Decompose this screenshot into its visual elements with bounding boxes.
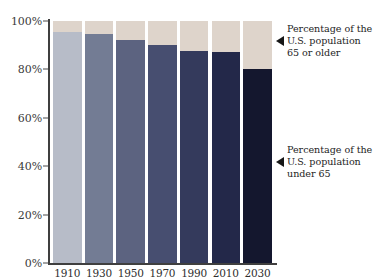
annotation-65-or-older-label: Percentage of the U.S. population 65 or … — [287, 23, 372, 60]
left-arrow-icon — [276, 36, 284, 46]
y-axis-tick-label: 20% — [18, 209, 42, 220]
bar-segment-65-or-older — [85, 21, 114, 34]
bar-segment-under-65 — [212, 52, 241, 263]
x-axis-tick-label: 1990 — [180, 266, 209, 280]
x-axis-tick-label: 1950 — [116, 266, 145, 280]
annotation-65-or-older: Percentage of the U.S. population 65 or … — [276, 23, 372, 60]
y-axis-tick-label: 0% — [25, 258, 42, 269]
bar-segment-under-65 — [180, 51, 209, 263]
y-axis-tick-label: 80% — [18, 64, 42, 75]
bar-segment-65-or-older — [180, 21, 209, 51]
x-axis-tick-label: 1930 — [85, 266, 114, 280]
x-axis-tick-label: 2030 — [243, 266, 272, 280]
stacked-bar-chart: 0%20%40%60%80%100% 191019301950197019902… — [0, 0, 389, 280]
bar-segment-65-or-older — [212, 21, 241, 52]
bar-segment-under-65 — [148, 45, 177, 263]
bar-1970 — [148, 21, 177, 263]
y-axis-tick-mark — [43, 263, 48, 264]
bar-1930 — [85, 21, 114, 263]
y-axis-tick-label: 40% — [18, 161, 42, 172]
bar-1910 — [53, 21, 82, 263]
bar-segment-65-or-older — [148, 21, 177, 45]
y-axis-tick-mark — [43, 21, 48, 22]
x-axis-tick-label: 1970 — [148, 266, 177, 280]
y-axis: 0%20%40%60%80%100% — [0, 0, 42, 280]
annotation-under-65: Percentage of the U.S. population under … — [276, 144, 372, 181]
plot-area — [53, 21, 275, 263]
y-axis-tick-mark — [43, 69, 48, 70]
bar-segment-65-or-older — [53, 21, 82, 32]
y-axis-line — [48, 19, 50, 265]
x-axis-line — [48, 263, 277, 265]
y-axis-tick-mark — [43, 117, 48, 118]
bar-2010 — [212, 21, 241, 263]
y-axis-tick-label: 100% — [11, 16, 42, 27]
bar-segment-65-or-older — [243, 21, 272, 69]
bar-segment-under-65 — [53, 32, 82, 263]
y-axis-tick-mark — [43, 214, 48, 215]
annotation-under-65-label: Percentage of the U.S. population under … — [287, 144, 372, 181]
x-axis-tick-label: 1910 — [53, 266, 82, 280]
bar-segment-65-or-older — [116, 21, 145, 40]
x-axis-tick-label: 2010 — [212, 266, 241, 280]
bar-1950 — [116, 21, 145, 263]
left-arrow-icon — [276, 157, 284, 167]
bar-segment-under-65 — [243, 69, 272, 263]
bar-1990 — [180, 21, 209, 263]
bar-segment-under-65 — [85, 34, 114, 263]
x-axis: 1910193019501970199020102030 — [53, 266, 275, 280]
y-axis-tick-label: 60% — [18, 112, 42, 123]
y-axis-tick-mark — [43, 166, 48, 167]
bar-segment-under-65 — [116, 40, 145, 263]
bar-2030 — [243, 21, 272, 263]
